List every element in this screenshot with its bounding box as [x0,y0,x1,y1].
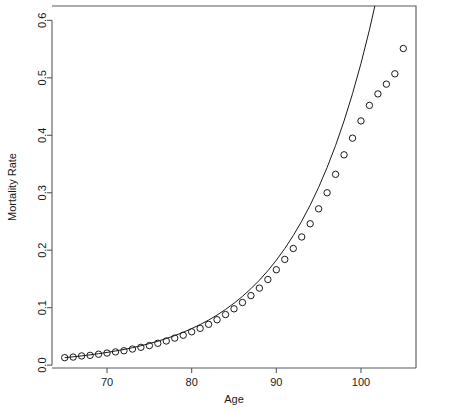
data-point [290,245,296,251]
data-point [332,171,338,177]
fitted-curve [65,0,378,358]
data-point [205,321,211,327]
data-point [400,45,406,51]
y-tick-label: 0.4 [36,128,48,143]
data-point [248,292,254,298]
data-point [299,234,305,240]
y-tick-label: 0.3 [36,185,48,200]
y-tick-label: 0.2 [36,243,48,258]
x-axis-title: Age [224,393,244,405]
data-point [256,285,262,291]
data-point [265,276,271,282]
x-tick-label: 80 [186,376,198,388]
data-point [231,306,237,312]
data-point [282,256,288,262]
data-point [392,71,398,77]
mortality-rate-chart: 0.00.10.20.30.40.50.6708090100AgeMortali… [0,0,463,413]
data-point [383,81,389,87]
plot-content [61,0,406,361]
data-point [341,152,347,158]
data-point [307,221,313,227]
data-point [366,102,372,108]
y-tick-label: 0.6 [36,13,48,28]
y-tick-label: 0.0 [36,357,48,372]
data-point-group [61,45,406,361]
data-point [214,317,220,323]
data-point [324,190,330,196]
data-point [358,118,364,124]
data-point [375,91,381,97]
x-tick-label: 70 [101,376,113,388]
y-tick-label: 0.5 [36,70,48,85]
y-axis-title: Mortality Rate [6,153,18,221]
data-point [315,206,321,212]
data-point [239,299,245,305]
data-point [273,267,279,273]
x-tick-label: 90 [270,376,282,388]
x-tick-label: 100 [352,376,370,388]
y-tick-label: 0.1 [36,300,48,315]
data-point [222,311,228,317]
chart-canvas: 0.00.10.20.30.40.50.6708090100AgeMortali… [0,0,463,413]
data-point [349,135,355,141]
data-point [112,349,118,355]
